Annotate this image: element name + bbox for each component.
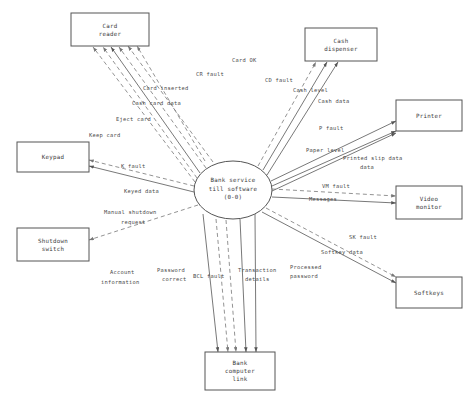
flow-label-account-information: Account [110,269,134,275]
flow-label-processed-password: Processed [290,264,321,270]
flow-label-password-correct-line2: correct [162,276,186,282]
flow-arrow-card-inserted [119,47,206,168]
flow-label-transaction-details-line2: details [245,276,269,282]
flow-label-cash-card-data: Cash card data [132,100,181,106]
flow-label-cash-data: Cash data [318,98,349,104]
flow-arrow-softkey-data [262,212,396,283]
flow-label-softkey-data: Softkey data [321,249,363,256]
entity-label-bank-computer-link: Bank [233,360,248,366]
external-entity-bank-computer-link[interactable]: Bankcomputerlink [205,352,275,390]
external-entity-printer[interactable]: Printer [396,100,462,131]
external-entity-softkeys[interactable]: Softkeys [396,277,462,308]
entity-label-cash-dispenser: Cash [334,38,349,44]
flow-label-k-fault: K fault [121,163,145,169]
flow-label-processed-password-line2: password [290,273,318,280]
flow-label-account-information-line2: information [101,279,139,285]
flow-label-cash-level: Cash level [293,87,328,93]
flow-arrow-vm-fault [272,189,396,196]
entity-label-keypad: Keypad [42,154,64,161]
flow-label-card-inserted: Card inserted [143,85,188,91]
flow-arrow-password-correct [216,219,228,352]
flow-label-keyed-data: Keyed data [124,188,159,195]
flow-arrow-sk-fault [266,208,396,277]
flow-label-vm-fault: VM fault [322,183,350,189]
flow-arrow-cash-card-data [111,47,200,173]
flow-arrow-bcl-fault [226,220,236,352]
entity-label-shutdown-switch: switch [42,246,64,252]
flow-label-cd-fault: CD fault [265,77,293,83]
flow-arrow-keep-card [93,47,195,182]
process-label-line1: Bank service [211,177,256,183]
external-entity-video-monitor[interactable]: Videomonitor [396,186,462,219]
flow-arrow-processed-password [255,214,256,352]
flow-label-password-correct: Password [157,267,185,273]
process-label-line3: (0-0) [224,194,243,200]
external-entity-keypad[interactable]: Keypad [17,142,89,172]
process-label-line2: till software [209,186,258,192]
entity-label-bank-computer-link: computer [225,368,255,375]
flow-label-paper-level: Paper level [306,147,344,154]
flow-label-card-ok: Card OK [232,57,257,63]
entity-label-cash-dispenser: dispenser [324,46,358,53]
flow-label-manual-shutdown-line2: request [121,219,145,226]
flow-arrow-account-information [203,214,218,352]
flow-label-p-fault: P fault [319,125,343,131]
flow-label-printed-slip-data: Printed slip data [343,155,402,162]
entity-label-bank-computer-link: link [233,376,248,382]
external-entity-cash-dispenser[interactable]: Cashdispenser [305,28,377,61]
flow-arrow-transaction-details [240,219,246,352]
entity-label-shutdown-switch: Shutdown [38,238,68,244]
dfd-canvas: CardreaderCashdispenserPrinterVideomonit… [0,0,470,393]
flow-label-transaction-details: Transaction [238,267,276,273]
entity-label-card-reader: reader [99,31,122,37]
flow-label-bcl-fault: BCL fault [193,273,224,279]
flow-arrow-eject-card [103,47,197,178]
flow-label-printed-slip-data-line2: data [360,164,374,170]
diagram-svg: CardreaderCashdispenserPrinterVideomonit… [0,0,470,393]
external-entity-shutdown-switch[interactable]: Shutdownswitch [17,228,89,261]
flow-label-keep-card: Keep card [89,132,120,139]
entity-label-printer: Printer [416,113,442,119]
external-entity-card-reader[interactable]: Cardreader [71,13,149,46]
entity-label-video-monitor: Video [420,196,439,202]
flow-label-messages: Messages [309,196,337,203]
entity-label-softkeys: Softkeys [414,290,444,297]
flow-label-eject-card: Eject card [116,116,151,123]
flow-label-manual-shutdown: Manual shutdown [104,209,156,215]
process-bubble-bank-service-till-software[interactable]: Bank servicetill software(0-0) [194,161,272,219]
flow-label-sk-fault: SK fault [349,234,377,240]
flow-label-cr-fault: CR fault [196,71,224,77]
entity-label-card-reader: Card [103,23,118,29]
entity-label-video-monitor: monitor [416,204,442,210]
process-bubble-group: Bank servicetill software(0-0) [194,161,272,219]
